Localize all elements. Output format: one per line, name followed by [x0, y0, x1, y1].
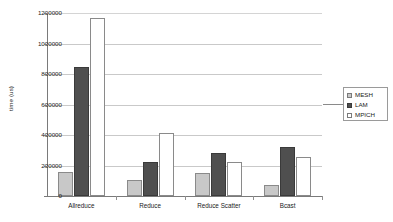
bar-group — [195, 13, 242, 196]
y-axis-title: time (us) — [7, 69, 14, 129]
bar-mpich-reduce-scatter — [227, 162, 242, 196]
x-category-label: Reduce — [116, 202, 185, 209]
y-tick-mark — [44, 13, 47, 14]
legend-swatch-mpich-icon — [347, 113, 352, 118]
bar-lam-allreduce — [74, 67, 89, 196]
legend-item-mesh: MESH — [347, 90, 387, 100]
x-category-label: Reduce Scatter — [185, 202, 254, 209]
bar-mesh-bcast — [264, 185, 279, 196]
bar-mpich-bcast — [296, 157, 311, 196]
y-tick-label: 1000000 — [38, 41, 62, 47]
bar-group — [264, 13, 311, 196]
x-category-separator — [322, 196, 323, 200]
y-tick-mark — [44, 74, 47, 75]
bar-mesh-reduce-scatter — [195, 173, 210, 196]
legend-swatch-mesh-icon — [347, 93, 352, 98]
bar-lam-reduce — [143, 162, 158, 196]
legend-label-mesh: MESH — [355, 92, 373, 98]
y-tick-label: 0 — [59, 193, 62, 199]
x-category-label: Bcast — [253, 202, 322, 209]
legend-swatch-lam-icon — [347, 103, 352, 108]
legend-leader-line — [323, 104, 343, 105]
bar-chart: time (us) 120000010000008000006000004000… — [0, 0, 393, 222]
y-tick-label: 1200000 — [38, 10, 62, 16]
x-category-separator — [253, 196, 254, 200]
chart-legend: MESH LAM MPICH — [343, 87, 388, 121]
y-tick-mark — [44, 105, 47, 106]
bar-group — [58, 13, 105, 196]
bar-mpich-allreduce — [90, 18, 105, 196]
bar-mpich-reduce — [159, 133, 174, 196]
x-category-separator — [185, 196, 186, 200]
legend-label-lam: LAM — [355, 102, 368, 108]
x-category-label: Allreduce — [47, 202, 116, 209]
bar-lam-reduce-scatter — [211, 153, 226, 196]
y-tick-mark — [44, 44, 47, 45]
bar-lam-bcast — [280, 147, 295, 196]
bar-mesh-reduce — [127, 180, 142, 196]
legend-item-mpich: MPICH — [347, 110, 387, 120]
legend-item-lam: LAM — [347, 100, 387, 110]
plot-area — [47, 13, 322, 196]
y-tick-mark — [44, 196, 47, 197]
x-category-separator — [116, 196, 117, 200]
y-tick-mark — [44, 135, 47, 136]
bar-group — [127, 13, 174, 196]
legend-label-mpich: MPICH — [355, 112, 375, 118]
y-tick-mark — [44, 166, 47, 167]
